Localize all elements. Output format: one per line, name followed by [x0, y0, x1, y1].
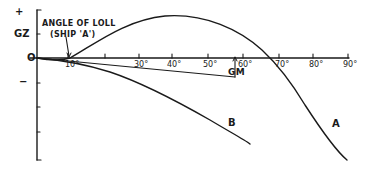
y-axis-plus-sign: + — [15, 7, 23, 17]
x-tick-label-80: 80° — [309, 61, 323, 69]
x-tick-label-50: 50° — [203, 61, 217, 69]
x-tick-label-90: 90° — [343, 61, 357, 69]
y-axis-label: GZ — [14, 29, 29, 39]
origin-label: O — [27, 53, 36, 63]
x-tick-label-40: 40° — [167, 61, 181, 69]
ship-a-annotation: (SHIP 'A') — [50, 31, 95, 39]
x-tick-label-10: 10° — [65, 61, 79, 69]
curve-b — [37, 58, 250, 144]
gm-label: GM — [228, 68, 245, 77]
x-tick-label-30: 30° — [134, 61, 148, 69]
y-axis-minus-sign: − — [19, 77, 27, 87]
x-tick-label-70: 70° — [275, 61, 289, 69]
curve-a-label: A — [332, 119, 340, 129]
gz-stability-diagram: + GZ O − ANGLE OF LOLL (SHIP 'A') 10° 30… — [0, 0, 372, 169]
angle-of-loll-label: ANGLE OF LOLL — [42, 20, 116, 28]
curve-b-label: B — [228, 118, 236, 128]
